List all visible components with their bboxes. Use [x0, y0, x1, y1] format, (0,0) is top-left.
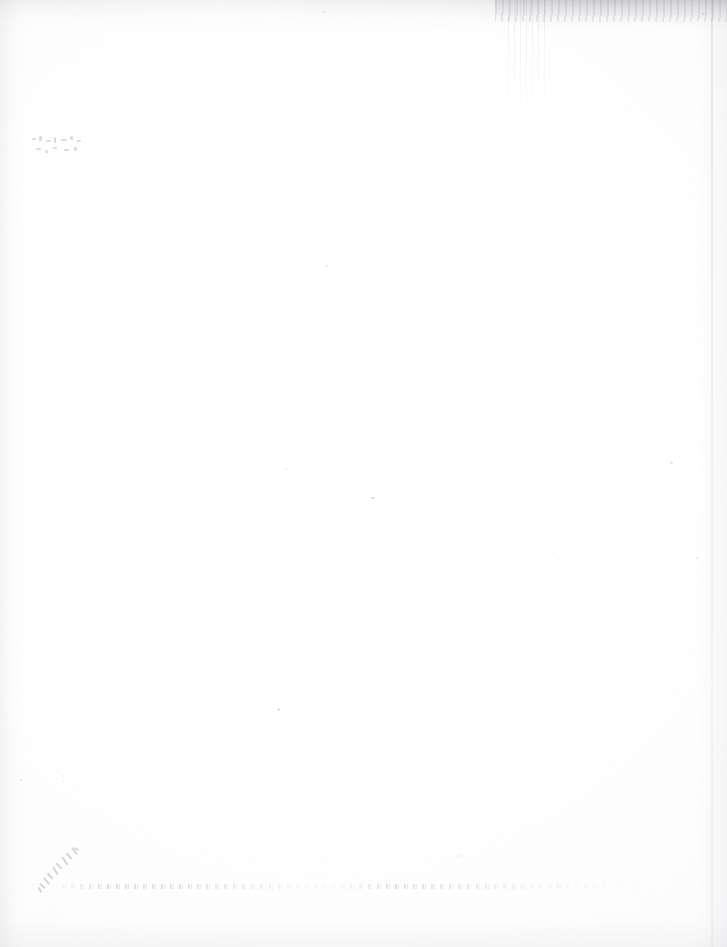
dust-speck	[20, 779, 22, 781]
dust-speck	[458, 855, 460, 857]
dust-speck	[323, 11, 325, 13]
scanner-streaks	[508, 0, 548, 118]
dust-speck	[371, 497, 375, 499]
dust-speck	[277, 708, 280, 711]
dust-speck	[285, 468, 287, 470]
dust-speck	[62, 775, 64, 777]
paper-grain	[0, 0, 727, 947]
show-through-text-line	[62, 884, 662, 889]
dust-speck	[696, 557, 698, 559]
dust-speck	[702, 13, 705, 15]
dust-speck	[447, 142, 449, 143]
dust-speck	[233, 148, 235, 149]
dust-speck	[670, 462, 673, 464]
right-page-boundary-line	[711, 0, 713, 947]
dust-speck	[552, 552, 554, 553]
bottom-edge-wash	[0, 917, 727, 947]
scanned-page	[0, 0, 727, 947]
dust-speck	[326, 265, 328, 267]
left-margin-band	[0, 0, 26, 947]
bleed-through-ghost-marks	[30, 135, 92, 161]
